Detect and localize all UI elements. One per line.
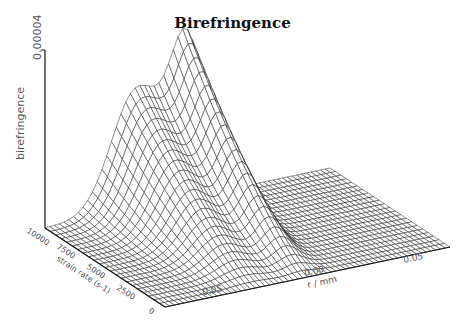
surface-plot: 0.00004 birefringence 0 2500 5000 7500 1…	[0, 0, 465, 327]
z-tick-label: 0.00004	[31, 15, 44, 61]
y-tick-label: 0	[147, 306, 156, 316]
z-axis-label: birefringence	[14, 87, 27, 160]
chart-root: Birefringence 0.00004 birefringence 0 25…	[0, 0, 465, 327]
wireframe-surface	[45, 29, 450, 307]
